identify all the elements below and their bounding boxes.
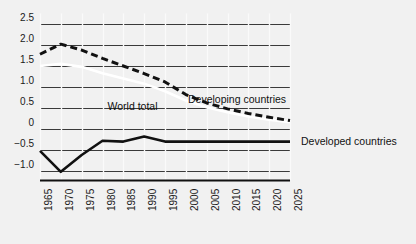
x-tick-label-1970: 1970 [65, 189, 75, 211]
annotation-developed-countries: Developed countries [301, 136, 397, 147]
x-tick-label-1980: 1980 [107, 189, 117, 211]
y-tick-label-0: 2.5 [4, 13, 34, 23]
x-tick-label-1965: 1965 [44, 189, 54, 211]
x-tick-label-1985: 1985 [127, 189, 137, 211]
chart-plot-area [0, 0, 416, 244]
x-tick-label-2025: 2025 [294, 189, 304, 211]
x-tick-label-2000: 2000 [190, 189, 200, 211]
y-tick-label-4: 0.5 [4, 97, 34, 107]
x-tick-label-2015: 2015 [252, 189, 262, 211]
annotation-world-total: World total [108, 101, 158, 112]
x-tick-label-2020: 2020 [273, 189, 283, 211]
y-tick-label-1: 2.0 [4, 34, 34, 44]
y-tick-label-7: −1.0 [4, 160, 34, 170]
y-tick-label-2: 1.5 [4, 55, 34, 65]
annotation-developing-countries: Developing countries [188, 94, 286, 105]
chart-container: 2.52.01.51.00.50−0.5−1.0 196519701975198… [0, 0, 416, 244]
y-tick-label-3: 1.0 [4, 76, 34, 86]
x-tick-label-2010: 2010 [232, 189, 242, 211]
x-tick-label-1995: 1995 [169, 189, 179, 211]
x-tick-label-1975: 1975 [86, 189, 96, 211]
y-tick-label-5: 0 [4, 118, 34, 128]
x-tick-label-1990: 1990 [148, 189, 158, 211]
y-tick-label-6: −0.5 [4, 139, 34, 149]
x-tick-label-2005: 2005 [211, 189, 221, 211]
